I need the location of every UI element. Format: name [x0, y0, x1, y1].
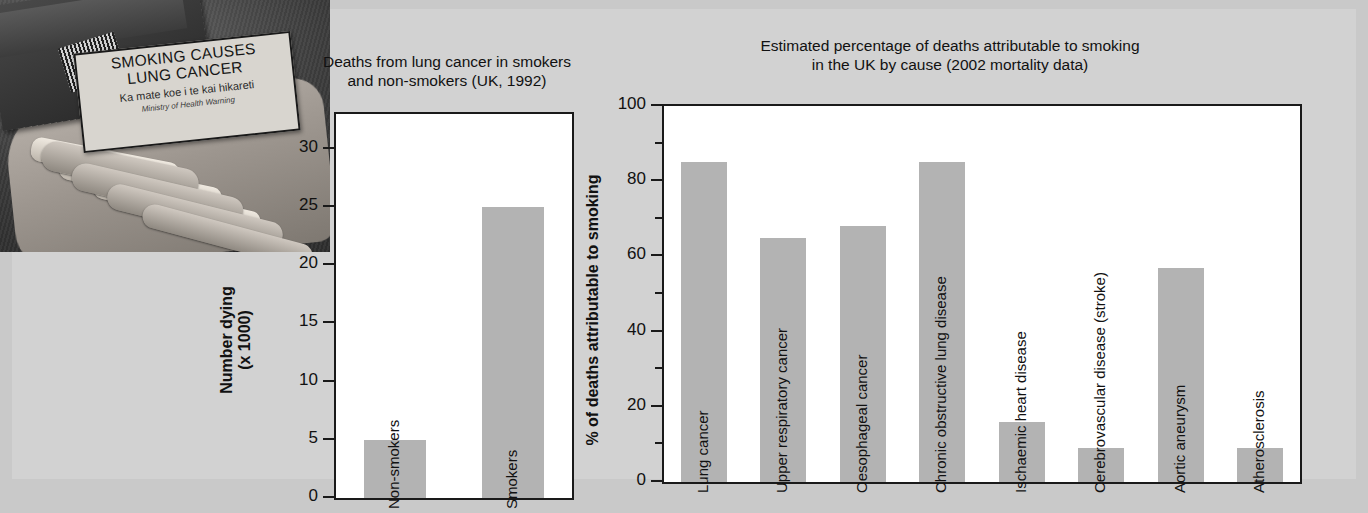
y-axis-tick-label: 100: [600, 94, 646, 114]
y-axis-tick-label: 80: [600, 169, 646, 189]
bar-category-label: Cerebrovascular disease (stroke): [1091, 272, 1108, 493]
y-axis-tick: [651, 104, 662, 106]
y-axis-tick-label: 20: [600, 395, 646, 415]
chart2-plot-area: Lung cancerUpper respiratory cancerOesop…: [662, 104, 1302, 484]
y-axis-tick: [323, 438, 334, 440]
y-axis-tick-label: 25: [252, 195, 318, 215]
y-axis-tick-label: 60: [600, 244, 646, 264]
chart2-title: Estimated percentage of deaths attributa…: [600, 36, 1300, 74]
chart-deaths-attributable-to-smoking-by-cause: Estimated percentage of deaths attributa…: [600, 36, 1340, 472]
chart1-title-line-1: Deaths from lung cancer in smokers: [307, 52, 587, 71]
bar-category-label: Oesophageal cancer: [853, 355, 870, 493]
bar-category-label: Ischaemic heart disease: [1012, 331, 1029, 493]
chart1-title: Deaths from lung cancer in smokers and n…: [307, 52, 587, 90]
chart1-title-line-2: and non-smokers (UK, 1992): [307, 71, 587, 90]
y-axis-tick-label: 30: [252, 137, 318, 157]
bar-category-label: Non-smokers: [385, 420, 402, 509]
y-axis-tick: [323, 263, 334, 265]
y-axis-minor-tick: [655, 217, 662, 219]
y-axis-tick: [651, 405, 662, 407]
chart1-y-axis-title: Number dying(x 1000): [218, 148, 254, 513]
y-axis-minor-tick: [655, 367, 662, 369]
bar-category-label: Aortic aneurysm: [1171, 385, 1188, 493]
y-axis-minor-tick: [655, 292, 662, 294]
bar-category-label: Upper respiratory cancer: [773, 328, 790, 493]
y-axis-minor-tick: [655, 142, 662, 144]
y-axis-tick: [651, 480, 662, 482]
y-axis-tick-label: 0: [252, 486, 318, 506]
y-axis-tick-label: 40: [600, 320, 646, 340]
bar-category-label: Chronic obstructive lung disease: [932, 276, 949, 493]
y-axis-tick: [323, 380, 334, 382]
y-axis-tick-label: 10: [252, 370, 318, 390]
y-axis-tick: [323, 321, 334, 323]
y-axis-tick: [323, 205, 334, 207]
y-axis-tick: [651, 330, 662, 332]
y-axis-tick-label: 0: [600, 470, 646, 490]
y-axis-minor-tick: [655, 442, 662, 444]
y-axis-tick: [323, 147, 334, 149]
bar-category-label: Lung cancer: [694, 410, 711, 493]
chart-deaths-smokers-vs-nonsmokers: Deaths from lung cancer in smokers and n…: [252, 52, 587, 472]
y-axis-title-line-1: Number dying: [218, 148, 236, 513]
y-axis-tick: [651, 254, 662, 256]
y-axis-tick-label: 20: [252, 253, 318, 273]
y-axis-tick: [651, 179, 662, 181]
chart2-title-line-1: Estimated percentage of deaths attributa…: [600, 36, 1300, 55]
y-axis-tick: [323, 496, 334, 498]
y-axis-tick-label: 15: [252, 311, 318, 331]
bar-category-label: Smokers: [503, 450, 520, 509]
bar-category-label: Atherosclerosis: [1250, 390, 1267, 493]
chart2-title-line-2: in the UK by cause (2002 mortality data): [600, 55, 1300, 74]
chart1-plot-area: Non-smokersSmokers: [334, 112, 574, 500]
y-axis-tick-label: 5: [252, 428, 318, 448]
